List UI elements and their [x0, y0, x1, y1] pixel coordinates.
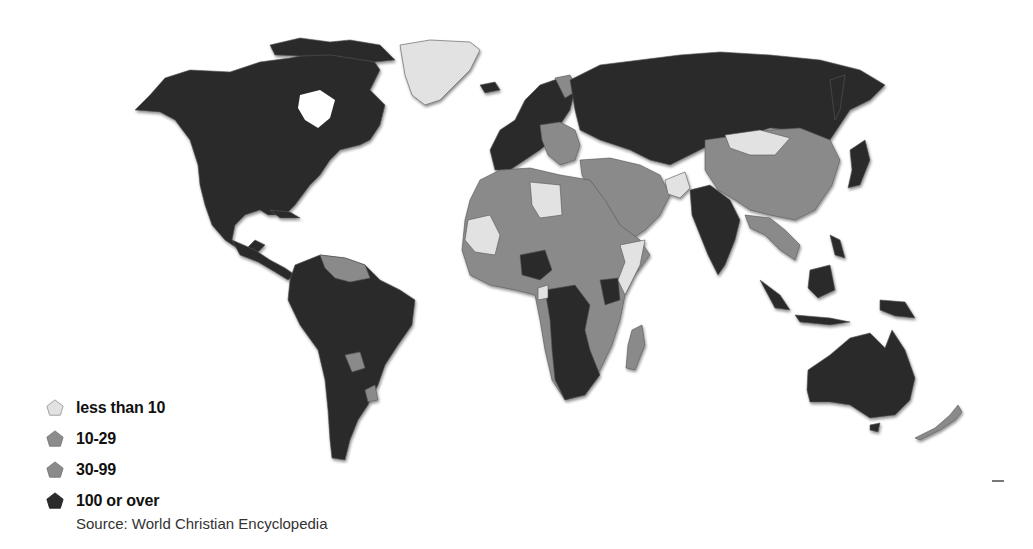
- edge-mark: [992, 480, 1004, 482]
- legend: less than 10 10-29 30-99 100 or over: [46, 392, 165, 516]
- source-caption: Source: World Christian Encyclopedia: [76, 515, 328, 532]
- legend-item-100-or-over: 100 or over: [46, 485, 165, 516]
- legend-label: less than 10: [76, 399, 165, 417]
- region-new-zealand: [915, 405, 962, 440]
- region-australia: [807, 330, 915, 418]
- pentagon-swatch-icon: [46, 399, 64, 417]
- legend-item-10-29: 10-29: [46, 423, 165, 454]
- legend-label: 100 or over: [76, 492, 159, 510]
- region-madagascar: [626, 325, 645, 370]
- legend-item-30-99: 30-99: [46, 454, 165, 485]
- legend-label: 30-99: [76, 461, 116, 479]
- legend-label: 10-29: [76, 430, 116, 448]
- pentagon-swatch-icon: [46, 461, 64, 479]
- legend-item-less-than-10: less than 10: [46, 392, 165, 423]
- pentagon-swatch-icon: [46, 492, 64, 510]
- pentagon-swatch-icon: [46, 430, 64, 448]
- region-north-america: [135, 50, 385, 255]
- region-greenland: [400, 40, 480, 105]
